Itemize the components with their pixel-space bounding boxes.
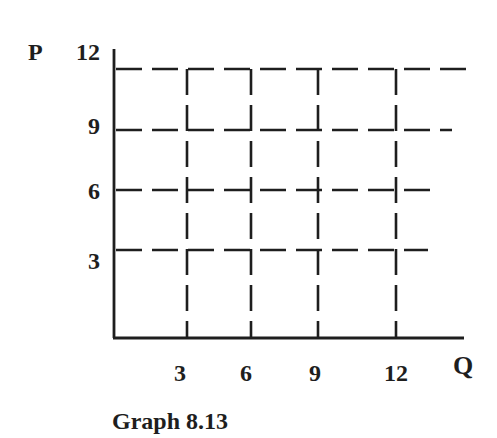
p-axis-label: P	[28, 39, 43, 65]
y-tick-6: 6	[88, 178, 100, 204]
x-tick-12: 12	[384, 360, 408, 386]
x-tick-9: 9	[309, 360, 321, 386]
dashed-grid	[116, 69, 466, 338]
x-tick-6: 6	[240, 360, 252, 386]
y-tick-12: 12	[76, 39, 100, 65]
graph-canvas: P 12 9 6 3 3 6 9 12 Q Graph 8.13	[0, 0, 497, 438]
q-axis-label: Q	[453, 351, 473, 380]
y-tick-3: 3	[88, 248, 100, 274]
graph-caption: Graph 8.13	[112, 408, 228, 434]
y-tick-9: 9	[88, 113, 100, 139]
x-tick-3: 3	[174, 360, 186, 386]
